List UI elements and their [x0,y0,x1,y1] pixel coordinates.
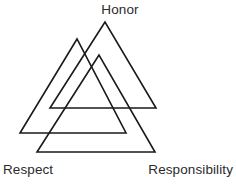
valknut-diagram: Honor Respect Responsibility [0,0,236,184]
label-respect: Respect [3,163,53,177]
triangle-honor [50,22,156,108]
triangles-graphic [0,0,236,184]
label-honor: Honor [0,3,236,17]
label-responsibility: Responsibility [148,163,233,177]
label-honor-text: Honor [101,3,138,17]
triangle-respect [20,39,126,133]
triangle-responsibility [37,55,155,152]
